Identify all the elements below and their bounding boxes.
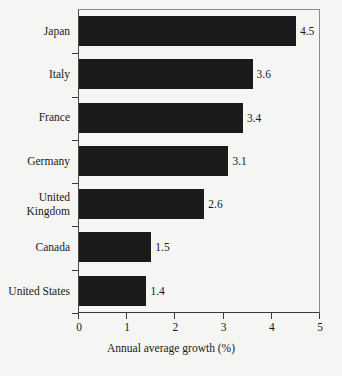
bar-united-states <box>79 276 146 306</box>
category-label: Italy <box>0 68 70 82</box>
category-label: UnitedKingdom <box>0 191 70 218</box>
bar-germany <box>79 146 228 176</box>
category-label-line: United <box>0 191 70 205</box>
category-label-line: Canada <box>0 241 70 255</box>
bar-row: 1.4 <box>79 270 320 313</box>
bar-chart: 4.53.63.43.12.61.51.4 JapanItalyFranceGe… <box>0 0 342 376</box>
bars-layer: 4.53.63.43.12.61.51.4 <box>79 10 320 313</box>
x-axis-tick-label: 3 <box>209 321 239 333</box>
bar-row: 4.5 <box>79 10 320 53</box>
bar-value-label: 2.6 <box>204 191 222 218</box>
bar-row: 3.4 <box>79 97 320 140</box>
category-label-line: United States <box>0 285 70 299</box>
bar-canada <box>79 232 151 262</box>
y-axis-tick <box>72 183 78 184</box>
x-axis-tick <box>126 313 127 319</box>
bar-row: 3.6 <box>79 53 320 96</box>
bar-value-label: 3.6 <box>253 61 271 88</box>
bar-row: 1.5 <box>79 226 320 269</box>
category-label-line: Germany <box>0 155 70 169</box>
bar-value-label: 1.4 <box>146 278 164 305</box>
bar-value-label: 4.5 <box>296 18 314 45</box>
x-axis-tick-label: 5 <box>305 321 335 333</box>
y-axis-tick <box>72 140 78 141</box>
bar-japan <box>79 16 296 46</box>
category-label: Germany <box>0 155 70 169</box>
x-axis-tick <box>78 313 79 319</box>
bar-value-label: 3.4 <box>243 105 261 132</box>
category-label-line: Japan <box>0 25 70 39</box>
category-label-line: Kingdom <box>0 205 70 219</box>
bar-united-kingdom <box>79 189 204 219</box>
x-axis-tick <box>223 313 224 319</box>
y-axis-tick <box>72 53 78 54</box>
x-axis-tick-label: 2 <box>160 321 190 333</box>
bar-value-label: 3.1 <box>228 148 246 175</box>
x-axis-tick-label: 1 <box>112 321 142 333</box>
category-label-line: Italy <box>0 68 70 82</box>
x-axis-tick-label: 4 <box>257 321 287 333</box>
x-axis-tick <box>271 313 272 319</box>
category-label: Japan <box>0 25 70 39</box>
category-label: United States <box>0 285 70 299</box>
x-axis-title: Annual average growth (%) <box>0 342 342 354</box>
bar-value-label: 1.5 <box>151 234 169 261</box>
bar-italy <box>79 59 253 89</box>
category-label: Canada <box>0 241 70 255</box>
y-axis-tick <box>72 97 78 98</box>
bar-france <box>79 103 243 133</box>
category-axis-labels: JapanItalyFranceGermanyUnitedKingdomCana… <box>0 10 70 313</box>
x-axis-tick-label: 0 <box>64 321 94 333</box>
category-label-line: France <box>0 111 70 125</box>
x-axis-tick <box>174 313 175 319</box>
x-axis-tick <box>319 313 320 319</box>
category-label: France <box>0 111 70 125</box>
bar-row: 2.6 <box>79 183 320 226</box>
y-axis-tick <box>72 226 78 227</box>
y-axis-tick <box>72 270 78 271</box>
bar-row: 3.1 <box>79 140 320 183</box>
